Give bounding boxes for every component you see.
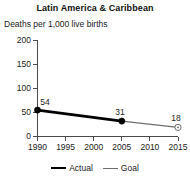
legend-swatch-goal-icon [103,168,118,169]
x-tick-label-2010: 2010 [140,142,159,152]
x-tick-label-2000: 2000 [84,142,103,152]
data-point-2005-actual [119,118,125,124]
legend-label-goal: Goal [121,163,139,173]
series-line-actual [38,110,122,121]
y-tick-label-200: 200 [17,35,31,45]
x-tick-label-2005: 2005 [112,142,131,152]
x-axis: 1990 1995 2000 2005 2010 2015 [28,137,188,153]
legend-swatch-actual-icon [51,167,66,169]
chart-legend: Actual Goal [0,163,190,173]
data-label-54: 54 [40,97,50,107]
data-point-1990-actual [34,107,40,113]
y-tick-label-100: 100 [17,83,31,93]
series-line-goal [122,121,178,127]
y-tick-label-0: 0 [26,131,31,141]
chart-card: Latin America & Caribbean Deaths per 1,0… [0,0,190,185]
plot-area: 200 150 100 50 0 1990 1995 2000 2005 201… [0,0,190,160]
x-tick-label-1995: 1995 [56,142,75,152]
x-tick-label-2015: 2015 [169,142,188,152]
data-label-18: 18 [171,113,181,123]
legend-item-goal[interactable]: Goal [103,163,139,173]
data-label-31: 31 [115,107,125,117]
legend-label-actual: Actual [69,163,93,173]
y-tick-label-50: 50 [22,107,32,117]
y-tick-label-150: 150 [17,59,31,69]
data-point-2015-goal-center [177,127,179,129]
legend-item-actual[interactable]: Actual [51,163,93,173]
x-tick-label-1990: 1990 [28,142,47,152]
y-axis: 200 150 100 50 0 [17,35,38,141]
